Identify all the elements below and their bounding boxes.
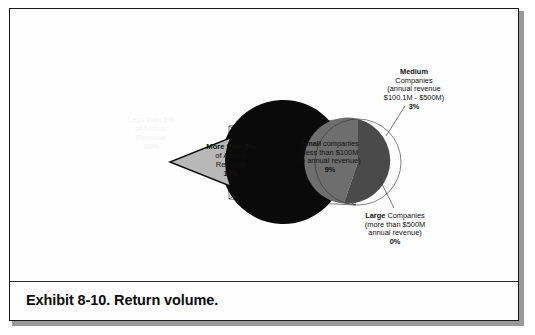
label-value: 88% <box>108 143 194 152</box>
exhibit-figure: Less than 5% of Annual Revenue 88% More … <box>0 0 535 335</box>
label-value: 3% <box>362 103 466 112</box>
label-more-than-5-percent: More than 5% of Annual Revenue 12% <box>192 143 270 179</box>
label-value: 9% <box>283 166 377 175</box>
label-rest: Companies <box>385 211 424 220</box>
label-emphasis: Small <box>301 139 321 148</box>
figure-caption: Exhibit 8-10. Return volume. <box>26 292 218 308</box>
caption-divider <box>10 281 518 282</box>
large-leader-line <box>379 178 394 208</box>
label-emphasis: Large <box>365 211 385 220</box>
chart-area: Less than 5% of Annual Revenue 88% More … <box>0 0 535 335</box>
label-small-companies: Small companies (less than $100M in annu… <box>283 140 377 175</box>
label-rest: companies <box>321 139 359 148</box>
label-less-than-5-percent: Less than 5% of Annual Revenue 88% <box>108 116 194 152</box>
label-value: 12% <box>192 170 270 179</box>
label-large-companies: Large Companies (more than $500M annual … <box>344 212 446 247</box>
label-value: 0% <box>344 238 446 247</box>
label-medium-companies: Medium Companies (annual revenue $100.1M… <box>362 68 466 112</box>
